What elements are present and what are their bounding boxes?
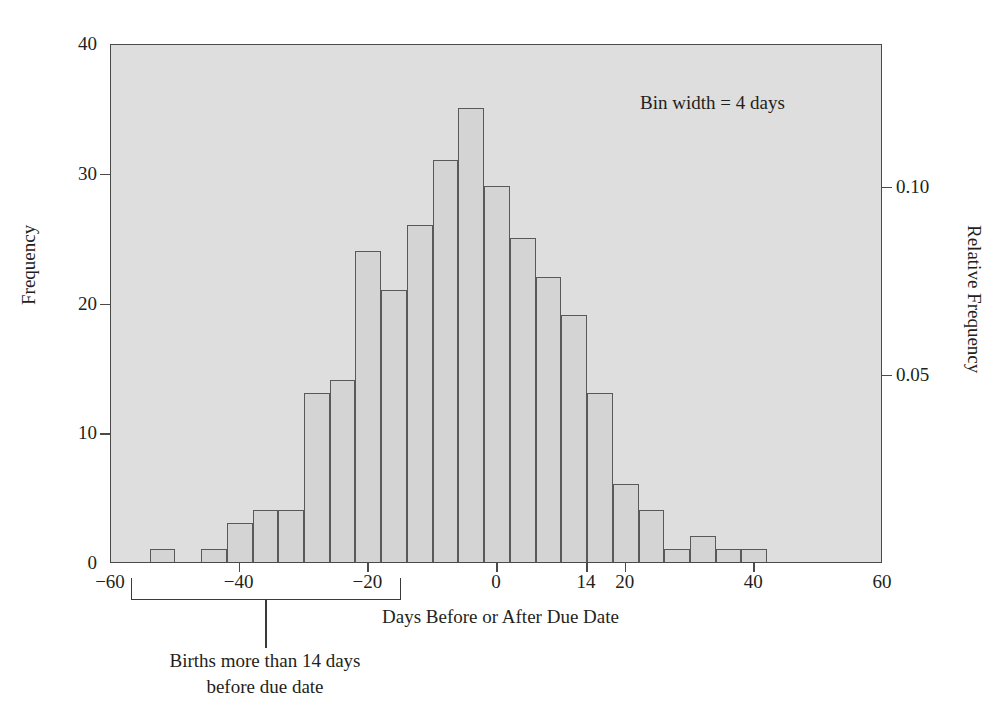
histogram-bar <box>484 186 510 562</box>
histogram-bar <box>227 523 253 562</box>
secondary-y-axis-title: Relative Frequency <box>963 225 985 373</box>
bin-width-annotation: Bin width = 4 days <box>640 92 785 114</box>
histogram-bar <box>561 315 587 562</box>
y-axis-tick-label: 40 <box>37 34 97 53</box>
figure-canvas: Frequency Relative Frequency Bin width =… <box>0 0 1001 717</box>
histogram-bar <box>741 549 767 562</box>
histogram-bar <box>433 160 459 562</box>
x-axis-tick-mark <box>625 563 627 572</box>
histogram-bar <box>510 238 536 562</box>
x-axis-title: Days Before or After Due Date <box>0 606 1001 628</box>
histogram-bar <box>587 393 613 562</box>
x-axis-tick-label: 60 <box>847 572 917 591</box>
histogram-bar <box>613 484 639 562</box>
y-axis-tick-mark <box>100 433 110 435</box>
x-axis-tick-mark <box>239 563 241 572</box>
secondary-y-axis-tick-label: 0.05 <box>896 365 929 384</box>
y-axis-tick-label: 30 <box>37 164 97 183</box>
x-axis-tick-label: 0 <box>461 572 531 591</box>
histogram-bars <box>111 45 881 562</box>
histogram-bar <box>278 510 304 562</box>
annotation-caption: Births more than 14 days before due date <box>50 648 480 699</box>
histogram-bar <box>330 380 356 562</box>
histogram-bar <box>381 290 407 562</box>
x-axis-tick-label: 40 <box>718 572 788 591</box>
y-axis-tick-label: 10 <box>37 423 97 442</box>
histogram-bar <box>458 108 484 562</box>
plot-area <box>110 44 882 563</box>
y-axis-tick-mark <box>100 174 110 176</box>
annotation-caption-line-1: Births more than 14 days <box>50 648 480 674</box>
annotation-caption-line-2: before due date <box>50 674 480 700</box>
x-axis-tick-label: 20 <box>590 572 660 591</box>
histogram-bar <box>690 536 716 562</box>
y-axis-tick-mark <box>100 304 110 306</box>
annotation-bracket <box>131 578 401 600</box>
x-axis-tick-mark <box>496 563 498 572</box>
histogram-bar <box>639 510 665 562</box>
histogram-bar <box>150 549 176 562</box>
secondary-y-axis-tick-mark <box>882 187 892 189</box>
histogram-bar <box>253 510 279 562</box>
histogram-bar <box>536 277 562 562</box>
secondary-y-axis-tick-label: 0.10 <box>896 177 929 196</box>
histogram-bar <box>355 251 381 562</box>
y-axis-tick-label: 0 <box>37 553 97 572</box>
histogram-bar <box>304 393 330 562</box>
x-axis-tick-mark <box>586 563 588 572</box>
histogram-bar <box>664 549 690 562</box>
x-axis-tick-mark <box>367 563 369 572</box>
histogram-bar <box>407 225 433 562</box>
histogram-bar <box>716 549 742 562</box>
histogram-bar <box>201 549 227 562</box>
y-axis-tick-label: 20 <box>37 294 97 313</box>
x-axis-tick-mark <box>753 563 755 572</box>
annotation-bracket-stem <box>265 600 267 648</box>
secondary-y-axis-tick-mark <box>882 375 892 377</box>
